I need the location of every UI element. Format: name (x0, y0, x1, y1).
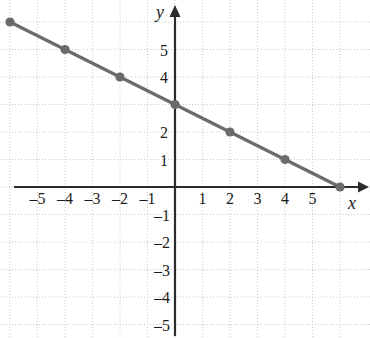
x-tick-label: 1 (199, 190, 207, 207)
x-tick-label: –1 (139, 190, 156, 207)
data-point-marker (225, 127, 234, 136)
data-point-marker (60, 45, 69, 54)
graph-background (0, 0, 370, 338)
data-point-marker (280, 155, 289, 164)
y-tick-label: –4 (153, 289, 170, 306)
y-tick-label: –2 (153, 234, 170, 251)
coordinate-plane-graph: –5–4–3–2–1123455421–1–2–3–4–5 x y (0, 0, 370, 338)
y-tick-label: –1 (153, 207, 170, 224)
y-tick-label: –3 (153, 262, 170, 279)
y-tick-label: 1 (160, 152, 168, 169)
y-tick-label: 4 (160, 69, 168, 86)
graph-svg: –5–4–3–2–1123455421–1–2–3–4–5 x y (0, 0, 370, 338)
data-point-marker (170, 100, 179, 109)
y-tick-label: –5 (153, 317, 170, 334)
data-point-marker (335, 182, 344, 191)
y-axis-label: y (154, 2, 164, 22)
x-tick-label: –2 (111, 190, 128, 207)
x-tick-label: –3 (84, 190, 101, 207)
x-tick-label: 5 (309, 190, 317, 207)
x-tick-label: 2 (226, 190, 234, 207)
data-point-marker (115, 72, 124, 81)
data-point-marker (5, 17, 14, 26)
y-tick-label: 2 (160, 124, 168, 141)
y-tick-label: 5 (160, 42, 168, 59)
x-axis-label: x (347, 193, 356, 213)
x-tick-label: –5 (29, 190, 46, 207)
x-tick-label: 3 (254, 190, 262, 207)
x-tick-label: –4 (56, 190, 73, 207)
x-tick-label: 4 (281, 190, 289, 207)
